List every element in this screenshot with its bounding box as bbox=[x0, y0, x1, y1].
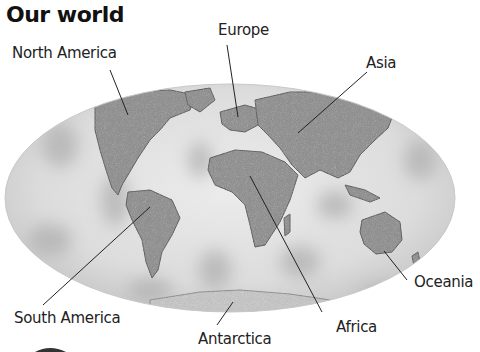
label-oceania: Oceania bbox=[414, 273, 473, 291]
label-antarctica: Antarctica bbox=[198, 330, 271, 348]
label-south-america: South America bbox=[14, 309, 120, 327]
label-asia: Asia bbox=[366, 54, 396, 72]
decorative-arc bbox=[35, 348, 66, 352]
label-north-america: North America bbox=[12, 44, 117, 62]
label-africa: Africa bbox=[336, 318, 377, 336]
label-europe: Europe bbox=[218, 21, 269, 39]
